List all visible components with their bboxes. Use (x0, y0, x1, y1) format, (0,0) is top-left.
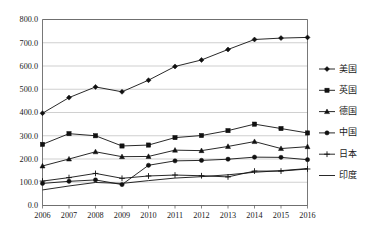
data-point-英国 (305, 131, 309, 135)
data-point-日本 (119, 175, 125, 181)
legend-marker-英国 (325, 88, 329, 92)
legend-item-印度[interactable]: 印度 (319, 169, 357, 180)
series-line-英国 (43, 124, 308, 146)
legend-marker-日本 (324, 151, 330, 157)
legend-item-英国[interactable]: 英国 (319, 84, 357, 95)
data-point-英国 (93, 134, 97, 138)
x-tick-label: 2008 (87, 211, 103, 220)
series-line-美国 (43, 37, 308, 113)
data-point-英国 (146, 143, 150, 147)
data-point-英国 (67, 132, 71, 136)
data-point-英国 (40, 142, 44, 146)
data-point-中国 (252, 155, 256, 159)
data-point-美国 (93, 84, 98, 89)
data-point-中国 (146, 163, 150, 167)
data-point-美国 (252, 37, 257, 42)
series-德国 (40, 139, 310, 168)
series-美国 (40, 35, 310, 116)
data-point-中国 (199, 158, 203, 162)
y-tick-label: 200.0 (20, 155, 38, 164)
legend-label-日本: 日本 (339, 148, 357, 159)
data-point-中国 (226, 157, 230, 161)
y-tick-label: 700.0 (20, 39, 38, 48)
series-印度 (43, 169, 308, 190)
legend-label-德国: 德国 (339, 105, 357, 116)
x-tick-label: 2007 (61, 211, 77, 220)
data-point-美国 (279, 36, 284, 41)
data-point-美国 (67, 95, 72, 100)
y-axis-tick-labels: 0.0100.0200.0300.0400.0500.0600.0700.080… (20, 15, 38, 210)
line-chart: 0.0100.0200.0300.0400.0500.0600.0700.080… (0, 0, 374, 240)
y-tick-label: 0.0 (28, 201, 38, 210)
legend-marker-中国 (325, 131, 329, 135)
data-point-中国 (93, 178, 97, 182)
legend-label-美国: 美国 (339, 63, 357, 74)
data-point-中国 (279, 155, 283, 159)
data-point-英国 (226, 129, 230, 133)
y-tick-label: 800.0 (20, 15, 38, 24)
x-tick-label: 2016 (299, 211, 315, 220)
y-tick-label: 100.0 (20, 178, 38, 187)
data-point-美国 (199, 57, 204, 62)
data-point-日本 (93, 171, 99, 177)
legend-item-美国[interactable]: 美国 (319, 63, 357, 74)
legend-item-中国[interactable]: 中国 (319, 126, 357, 137)
data-point-中国 (305, 158, 309, 162)
data-point-德国 (93, 149, 98, 154)
x-tick-label: 2009 (114, 211, 130, 220)
x-tick-label: 2014 (246, 211, 262, 220)
data-point-美国 (226, 47, 231, 52)
legend-item-德国[interactable]: 德国 (319, 105, 357, 116)
data-point-美国 (40, 111, 45, 116)
data-point-英国 (199, 133, 203, 137)
data-point-美国 (305, 35, 310, 40)
data-point-美国 (173, 64, 178, 69)
data-point-英国 (279, 126, 283, 130)
legend-item-日本[interactable]: 日本 (319, 148, 357, 159)
x-tick-label: 2013 (220, 211, 236, 220)
legend-label-英国: 英国 (339, 84, 357, 95)
data-point-美国 (120, 89, 125, 94)
y-tick-label: 400.0 (20, 108, 38, 117)
series-日本 (40, 166, 311, 184)
x-tick-label: 2006 (34, 211, 50, 220)
legend-label-中国: 中国 (339, 126, 357, 137)
data-point-英国 (252, 122, 256, 126)
data-point-德国 (252, 139, 257, 144)
data-point-日本 (66, 175, 72, 181)
series-line-印度 (43, 169, 308, 190)
series-英国 (40, 122, 309, 148)
x-axis-tick-labels: 2006200720082009201020112012201320142015… (34, 211, 315, 220)
chart-canvas: 0.0100.0200.0300.0400.0500.0600.0700.080… (0, 0, 374, 240)
x-axis-tick-marks (43, 206, 308, 209)
x-tick-label: 2010 (140, 211, 156, 220)
y-tick-label: 500.0 (20, 85, 38, 94)
x-tick-label: 2012 (193, 211, 209, 220)
data-point-日本 (252, 168, 258, 174)
data-point-日本 (146, 173, 152, 179)
data-point-中国 (173, 159, 177, 163)
data-point-英国 (120, 144, 124, 148)
x-tick-label: 2011 (167, 211, 183, 220)
legend-label-印度: 印度 (339, 169, 357, 180)
chart-legend[interactable]: 美国英国德国中国日本印度 (319, 63, 357, 181)
legend-marker-美国 (325, 67, 330, 72)
data-point-日本 (199, 173, 205, 179)
data-point-英国 (173, 135, 177, 139)
data-point-日本 (172, 172, 178, 178)
data-point-美国 (146, 78, 151, 83)
y-tick-label: 300.0 (20, 132, 38, 141)
x-tick-label: 2015 (273, 211, 289, 220)
y-tick-label: 600.0 (20, 62, 38, 71)
